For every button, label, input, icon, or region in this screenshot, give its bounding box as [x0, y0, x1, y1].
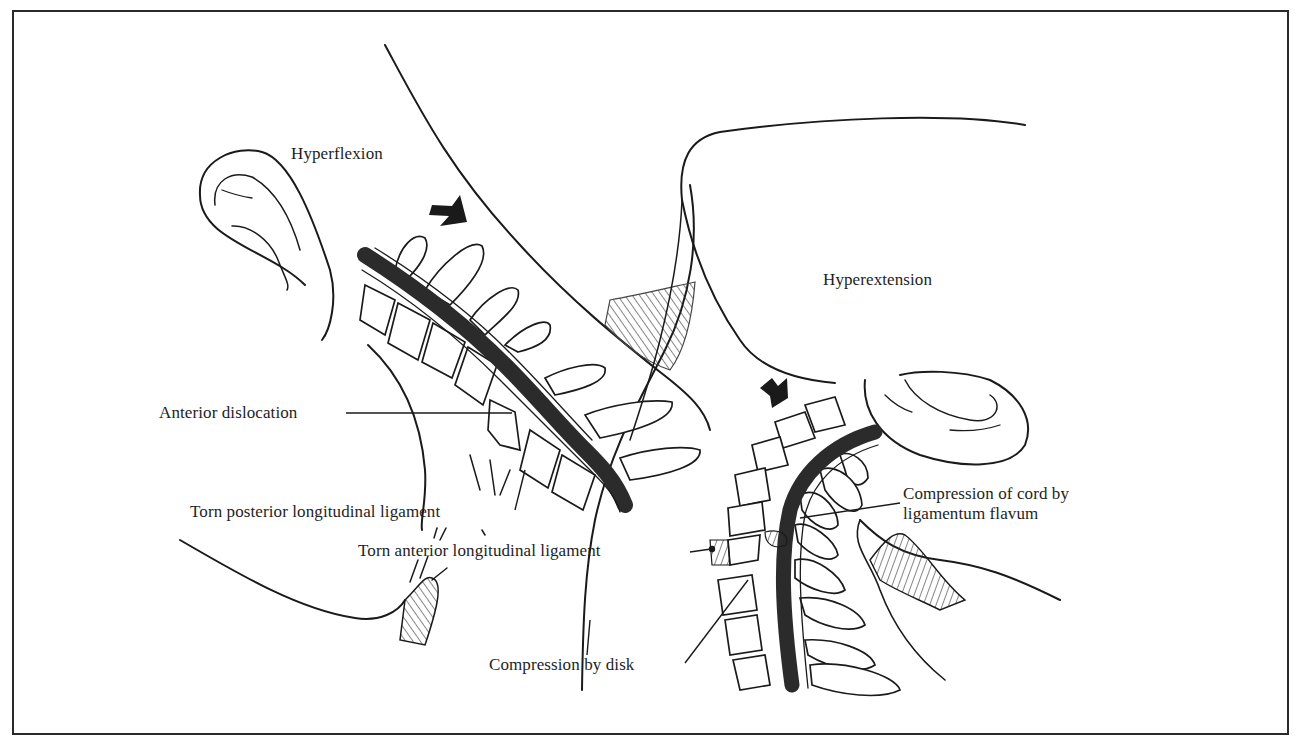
label-compression-by-disk: Compression by disk [489, 655, 634, 675]
label-compression-cord-line2: ligamentum flavum [903, 504, 1038, 524]
leader-torn-anterior [690, 549, 711, 552]
label-torn-posterior-ligament: Torn posterior longitudinal ligament [190, 502, 440, 522]
spine-injury-illustration [0, 0, 1298, 744]
back-of-head-outline [385, 45, 710, 430]
hyperextension-title: Hyperextension [823, 270, 932, 290]
right-ear-icon [865, 372, 1028, 465]
label-anterior-dislocation: Anterior dislocation [159, 403, 297, 423]
force-arrow-icon [429, 195, 467, 226]
left-ear-icon [200, 150, 333, 340]
leader-torn-posterior [515, 470, 525, 510]
label-compression-cord-line1: Compression of cord by [903, 484, 1069, 504]
head-outline [681, 118, 1025, 383]
hyperextension-figure [630, 118, 1060, 696]
label-torn-anterior-ligament: Torn anterior longitudinal ligament [358, 541, 601, 561]
hyperflexion-figure [180, 45, 710, 690]
leader-compression-disk-a [587, 620, 590, 655]
force-arrow-icon-right [760, 378, 788, 408]
hyperflexion-title: Hyperflexion [291, 144, 383, 164]
